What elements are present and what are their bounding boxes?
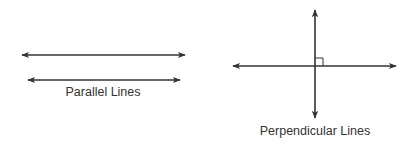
perpendicular-lines-group: [233, 10, 396, 118]
perpendicular-lines-label: Perpendicular Lines: [260, 124, 371, 138]
right-angle-marker-icon: [315, 58, 323, 66]
parallel-lines-group: [22, 55, 185, 80]
lines-diagram: Parallel Lines Perpendicular Lines: [0, 0, 415, 145]
parallel-lines-label: Parallel Lines: [65, 85, 140, 99]
